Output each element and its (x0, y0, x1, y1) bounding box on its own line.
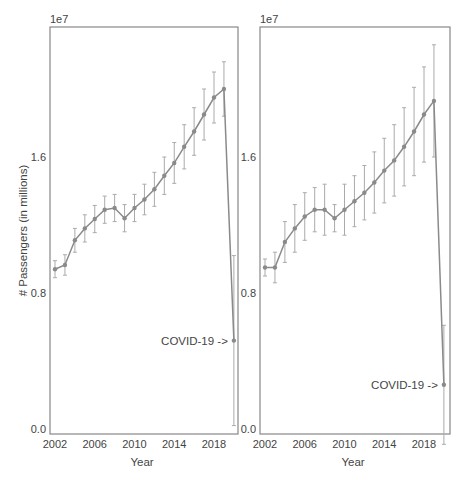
data-line (265, 101, 444, 385)
x-tick-label: 2002 (253, 438, 277, 450)
y-tick-label: 0.8 (241, 287, 256, 299)
y-tick-label: 0.8 (31, 287, 46, 299)
data-point (342, 208, 346, 212)
data-point (442, 383, 446, 387)
data-point (192, 129, 196, 133)
y-offset-label: 1e7 (260, 13, 278, 25)
data-point (432, 99, 436, 103)
x-tick-label: 2014 (372, 438, 396, 450)
covid-annotation: COVID-19 -> (161, 335, 228, 347)
data-point (263, 265, 267, 269)
data-point (392, 158, 396, 162)
x-tick-label: 2018 (202, 438, 226, 450)
x-axis-label: Year (130, 456, 153, 468)
x-tick-label: 2002 (43, 438, 67, 450)
y-offset-label: 1e7 (50, 13, 68, 25)
data-point (222, 87, 226, 91)
data-point (53, 267, 57, 271)
x-tick-label: 2006 (83, 438, 107, 450)
data-point (162, 174, 166, 178)
data-point (112, 206, 116, 210)
data-point (412, 129, 416, 133)
data-point (293, 226, 297, 230)
chart-figure: 1e70.00.81.620022006201020142018Year# Pa… (0, 0, 466, 477)
plot-frame (50, 27, 238, 434)
data-point (63, 263, 67, 267)
data-point (93, 217, 97, 221)
x-axis-label: Year (341, 456, 364, 468)
covid-annotation: COVID-19 -> (371, 379, 438, 391)
x-tick-label: 2006 (293, 438, 317, 450)
data-point (232, 338, 236, 342)
data-point (132, 206, 136, 210)
y-tick-label: 0.0 (31, 423, 46, 435)
chart-panel-1: 1e70.00.81.620022006201020142018Year# Pa… (17, 13, 238, 468)
data-point (283, 240, 287, 244)
data-point (402, 145, 406, 149)
data-point (152, 187, 156, 191)
y-tick-label: 1.6 (241, 151, 256, 163)
plot-frame (260, 27, 450, 434)
x-tick-label: 2010 (332, 438, 356, 450)
data-point (303, 214, 307, 218)
data-point (322, 208, 326, 212)
data-point (382, 168, 386, 172)
data-point (83, 226, 87, 230)
data-point (182, 145, 186, 149)
data-point (202, 112, 206, 116)
y-axis-label: # Passengers (in millions) (17, 165, 29, 297)
data-point (102, 208, 106, 212)
data-point (273, 265, 277, 269)
data-point (362, 191, 366, 195)
data-point (142, 197, 146, 201)
y-tick-label: 0.0 (241, 423, 256, 435)
data-point (422, 112, 426, 116)
data-point (352, 199, 356, 203)
data-point (312, 208, 316, 212)
chart-panel-2: 1e70.00.81.620022006201020142018YearCOVI… (241, 13, 450, 468)
data-point (172, 161, 176, 165)
data-point (212, 95, 216, 99)
x-tick-label: 2018 (412, 438, 436, 450)
data-point (122, 216, 126, 220)
y-tick-label: 1.6 (31, 151, 46, 163)
data-point (332, 216, 336, 220)
x-tick-label: 2014 (162, 438, 186, 450)
data-point (372, 180, 376, 184)
data-point (73, 238, 77, 242)
x-tick-label: 2010 (122, 438, 146, 450)
